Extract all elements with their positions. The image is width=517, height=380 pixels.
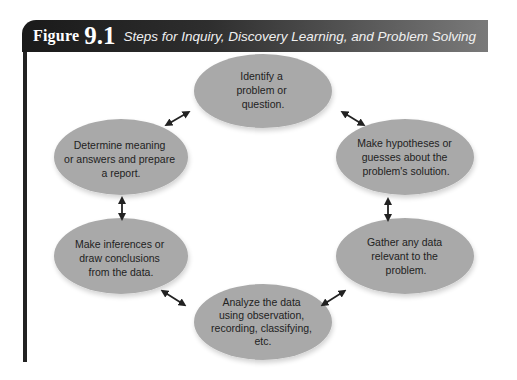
node-analyze: Analyze the data using observation, reco… [194,284,332,360]
arrow-identify-hypotheses-icon [344,113,362,124]
arrow-report-identify-icon [168,113,187,124]
arrow-analyze-infer-icon [164,292,183,304]
cycle-diagram: Identify a problem or question. Make hyp… [0,0,517,380]
node-identify: Identify a problem or question. [194,54,332,128]
node-gather: Gather any data relevant to the problem. [336,218,474,294]
node-infer: Make inferences or draw conclusions from… [54,218,188,294]
node-infer-text: Make inferences or draw conclusions from… [75,238,167,278]
node-hypotheses: Make hypotheses or guesses about the pro… [336,119,474,195]
arrow-gather-analyze-icon [324,292,343,304]
node-report: Determine meaning or answers and prepare… [54,119,188,195]
node-hypotheses-text: Make hypotheses or guesses about the pro… [357,137,454,177]
node-identify-text: Identify a problem or question. [236,70,289,110]
